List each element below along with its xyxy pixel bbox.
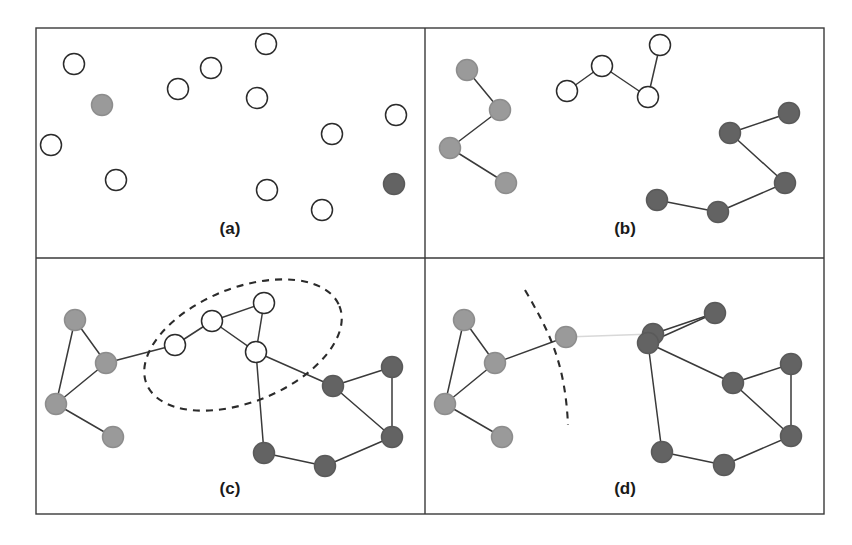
graph-node-white	[202, 311, 223, 332]
panel-d-label: (d)	[614, 479, 636, 498]
graph-node-dark	[775, 173, 796, 194]
graph-node-dark	[323, 376, 344, 397]
graph-node-white	[322, 124, 343, 145]
graph-node-light	[65, 310, 86, 331]
graph-node-dark	[705, 303, 726, 324]
graph-node-dark	[315, 456, 336, 477]
graph-node-dark	[647, 190, 668, 211]
graph-node-light	[435, 394, 456, 415]
graph-node-dark	[382, 357, 403, 378]
graph-node-dark	[638, 333, 659, 354]
graph-node-light	[485, 353, 506, 374]
graph-node-dark	[254, 443, 275, 464]
graph-node-dark	[384, 174, 405, 195]
graph-node-white	[312, 200, 333, 221]
graph-node-dark	[779, 103, 800, 124]
graph-node-dark	[714, 455, 735, 476]
graph-node-dark	[723, 373, 744, 394]
graph-node-light	[496, 173, 517, 194]
panel-b-label: (b)	[614, 219, 636, 238]
graph-node-white	[246, 342, 267, 363]
graph-node-white	[64, 54, 85, 75]
panel-c-label: (c)	[220, 479, 241, 498]
figure-root: (a) (b) (c) (d)	[0, 0, 852, 545]
graph-node-white	[165, 335, 186, 356]
graph-node-dark	[781, 354, 802, 375]
graph-node-light	[490, 100, 511, 121]
graph-node-white	[257, 180, 278, 201]
graph-node-white	[254, 293, 275, 314]
graph-node-light	[492, 427, 513, 448]
graph-node-white	[41, 135, 62, 156]
graph-node-white	[650, 35, 671, 56]
graph-node-white	[638, 87, 659, 108]
graph-node-white	[256, 34, 277, 55]
graph-node-white	[557, 81, 578, 102]
panel-a-label: (a)	[220, 219, 241, 238]
graph-node-light	[46, 394, 67, 415]
graph-node-light	[92, 95, 113, 116]
graph-node-light	[454, 310, 475, 331]
graph-node-white	[247, 88, 268, 109]
graph-node-light	[440, 138, 461, 159]
graph-node-white	[592, 56, 613, 77]
graph-node-light	[103, 427, 124, 448]
graph-node-dark	[720, 123, 741, 144]
graph-node-dark	[708, 202, 729, 223]
graph-node-white	[106, 170, 127, 191]
graph-node-light	[457, 60, 478, 81]
graph-node-dark	[781, 426, 802, 447]
graph-node-white	[386, 105, 407, 126]
graph-node-light	[556, 327, 577, 348]
figure-canvas: (a) (b) (c) (d)	[0, 0, 852, 545]
graph-node-light	[96, 353, 117, 374]
graph-node-white	[168, 79, 189, 100]
graph-node-white	[201, 58, 222, 79]
graph-node-dark	[652, 442, 673, 463]
graph-node-dark	[382, 427, 403, 448]
